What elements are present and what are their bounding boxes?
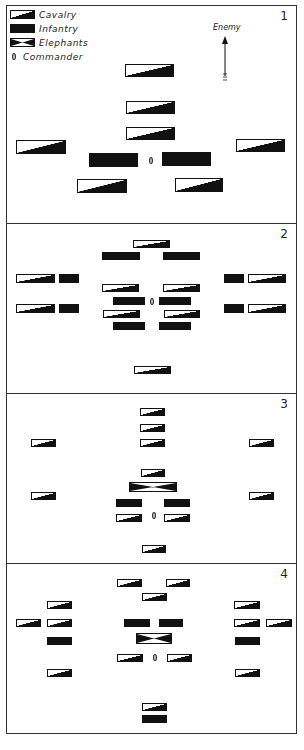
cavalry-unit — [116, 514, 142, 522]
elephants-unit — [136, 633, 172, 644]
cavalry-unit — [31, 492, 56, 500]
cavalry-unit — [126, 101, 175, 114]
enemy-label: Enemy — [213, 23, 241, 32]
legend-item-elephants: Elephants — [10, 36, 88, 49]
cavalry-unit — [175, 178, 223, 192]
cavalry-unit — [248, 304, 286, 313]
cavalry-unit — [142, 545, 166, 553]
cavalry-unit — [167, 654, 192, 662]
cavalry-unit — [47, 619, 72, 627]
panel-number: 1 — [280, 9, 288, 23]
cavalry-unit — [125, 64, 174, 77]
cavalry-unit — [16, 140, 66, 154]
cavalry-unit — [117, 579, 142, 587]
elephants-icon — [10, 38, 35, 47]
cavalry-unit — [16, 304, 55, 313]
cavalry-unit — [140, 408, 165, 416]
cavalry-unit — [134, 366, 171, 374]
commander-icon-wrap — [10, 52, 35, 61]
cavalry-unit — [103, 310, 140, 318]
cavalry-unit — [249, 439, 274, 447]
legend: Cavalry Infantry Elephants Commander — [10, 8, 88, 64]
cavalry-unit — [47, 601, 72, 609]
infantry-unit — [59, 274, 79, 283]
legend-item-cavalry: Cavalry — [10, 8, 88, 21]
cavalry-unit — [235, 669, 260, 677]
cavalry-unit — [126, 127, 175, 140]
infantry-unit — [235, 637, 260, 645]
infantry-unit — [124, 619, 150, 627]
cavalry-unit — [166, 579, 190, 587]
infantry-icon — [10, 24, 35, 33]
cavalry-unit — [163, 284, 200, 292]
infantry-unit — [89, 153, 138, 167]
cavalry-unit — [102, 284, 139, 292]
infantry-unit — [102, 252, 140, 260]
infantry-unit — [162, 152, 211, 166]
commander-icon — [12, 53, 16, 60]
cavalry-unit — [236, 139, 285, 152]
legend-label: Infantry — [39, 24, 78, 34]
infantry-unit — [224, 274, 244, 283]
panel-number: 4 — [280, 567, 288, 581]
infantry-unit — [59, 304, 79, 313]
commander-icon — [150, 298, 154, 305]
infantry-unit — [142, 715, 167, 723]
panel-number: 3 — [280, 397, 288, 411]
panel-number: 2 — [280, 227, 288, 241]
cavalry-unit — [249, 492, 274, 500]
infantry-unit — [47, 637, 72, 645]
infantry-unit — [159, 619, 183, 627]
infantry-unit — [159, 322, 191, 330]
cavalry-unit — [234, 619, 260, 627]
panel-3: 3 — [6, 393, 297, 564]
cavalry-unit — [77, 179, 127, 193]
legend-label: Cavalry — [39, 10, 77, 20]
infantry-unit — [163, 252, 200, 260]
cavalry-unit — [141, 469, 165, 477]
legend-label: Elephants — [39, 38, 88, 48]
cavalry-unit — [164, 514, 190, 522]
cavalry-unit — [248, 274, 286, 283]
cavalry-unit — [16, 619, 41, 627]
cavalry-unit — [16, 274, 55, 283]
commander-icon — [149, 157, 153, 164]
infantry-unit — [113, 297, 145, 305]
cavalry-unit — [31, 439, 56, 447]
cavalry-unit — [164, 310, 200, 318]
cavalry-unit — [117, 654, 143, 662]
elephants-unit — [129, 482, 177, 492]
commander-icon — [153, 654, 157, 661]
cavalry-unit — [140, 424, 165, 432]
legend-item-commander: Commander — [10, 50, 88, 63]
enemy-direction-arrow-icon — [222, 36, 228, 82]
infantry-unit — [224, 304, 244, 313]
cavalry-unit — [47, 669, 72, 677]
infantry-unit — [113, 322, 145, 330]
cavalry-unit — [142, 593, 167, 601]
commander-icon — [152, 512, 156, 519]
infantry-unit — [164, 499, 190, 507]
cavalry-unit — [266, 619, 292, 627]
infantry-unit — [159, 297, 191, 305]
legend-item-infantry: Infantry — [10, 22, 88, 35]
cavalry-unit — [133, 240, 170, 248]
cavalry-unit — [142, 703, 167, 711]
cavalry-icon — [10, 10, 35, 19]
infantry-unit — [116, 499, 142, 507]
cavalry-unit — [234, 601, 260, 609]
cavalry-unit — [140, 439, 165, 447]
